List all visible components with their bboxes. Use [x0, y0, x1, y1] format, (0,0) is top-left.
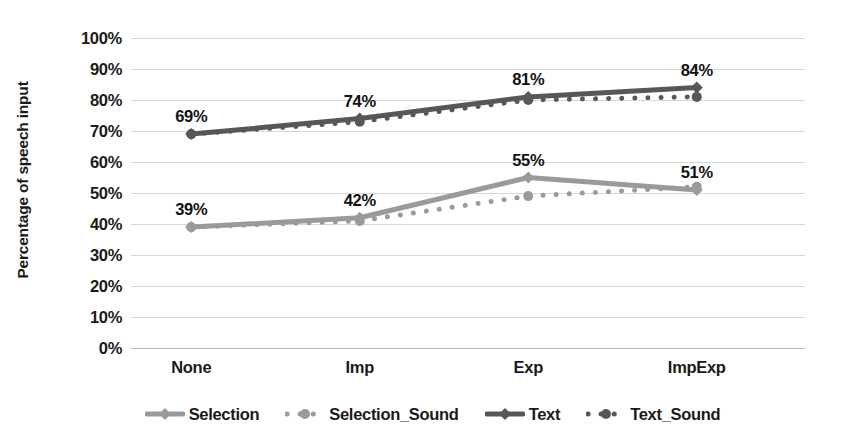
- legend-label: Text_Sound: [630, 405, 720, 424]
- legend-label: Text: [529, 405, 561, 424]
- data-point-marker: [355, 117, 365, 127]
- data-point-marker: [186, 222, 196, 232]
- y-axis-tick-labels: 100%90%80%70%60%50%40%30%20%10%0%: [40, 0, 128, 447]
- legend-label: Selection_Sound: [329, 405, 458, 424]
- x-axis-tick-label: Exp: [514, 358, 543, 377]
- y-axis-tick-label: 30%: [90, 246, 122, 265]
- legend-item-text[interactable]: Text: [485, 405, 561, 424]
- data-label: 51%: [681, 163, 713, 182]
- legend-item-text_sound[interactable]: Text_Sound: [586, 405, 720, 424]
- y-axis-tick-label: 40%: [90, 215, 122, 234]
- y-axis-tick-label: 90%: [90, 60, 122, 79]
- data-label: 84%: [681, 61, 713, 80]
- data-label: 74%: [344, 92, 376, 111]
- series-line: [191, 178, 697, 228]
- y-axis-title-text: Percentage of speech input: [14, 81, 32, 278]
- line-chart: Percentage of speech input 100%90%80%70%…: [0, 0, 865, 447]
- y-axis-tick-label: 60%: [90, 153, 122, 172]
- y-axis-tick-label: 100%: [81, 29, 122, 48]
- legend-item-selection[interactable]: Selection: [145, 405, 260, 424]
- data-point-marker: [691, 82, 703, 94]
- y-axis-tick-label: 50%: [90, 184, 122, 203]
- legend-item-selection_sound[interactable]: Selection_Sound: [285, 405, 458, 424]
- legend-swatch-dotted: [586, 406, 626, 422]
- series-canvas: [131, 38, 805, 348]
- data-point-marker: [692, 182, 702, 192]
- data-point-marker: [186, 129, 196, 139]
- data-point-marker: [523, 191, 533, 201]
- data-point-marker: [522, 172, 534, 184]
- x-axis-tick-label: ImpExp: [668, 358, 726, 377]
- plot-area: 39%42%55%51%69%74%81%84%: [131, 38, 805, 348]
- data-label: 39%: [175, 200, 207, 219]
- series-selection: [185, 172, 703, 234]
- legend-label: Selection: [189, 405, 260, 424]
- legend-swatch-dotted: [285, 406, 325, 422]
- x-axis-tick-labels: NoneImpExpImpExp: [131, 356, 805, 390]
- x-axis-tick-label: None: [171, 358, 211, 377]
- y-axis-tick-label: 80%: [90, 91, 122, 110]
- chart-legend: SelectionSelection_SoundTextText_Sound: [0, 398, 865, 430]
- data-label: 81%: [512, 70, 544, 89]
- data-label: 69%: [175, 107, 207, 126]
- legend-swatch-solid: [485, 406, 525, 422]
- y-axis-tick-label: 10%: [90, 308, 122, 327]
- y-axis-tick-label: 0%: [99, 339, 122, 358]
- series-text_sound: [186, 92, 702, 139]
- x-axis-line: [131, 348, 805, 349]
- y-axis-tick-label: 20%: [90, 277, 122, 296]
- x-axis-tick-label: Imp: [346, 358, 374, 377]
- series-text: [185, 82, 703, 141]
- y-axis-title: Percentage of speech input: [6, 0, 40, 360]
- y-axis-tick-label: 70%: [90, 122, 122, 141]
- legend-swatch-solid: [145, 406, 185, 422]
- data-label: 55%: [512, 151, 544, 170]
- data-point-marker: [355, 216, 365, 226]
- data-label: 42%: [344, 191, 376, 210]
- data-point-marker: [523, 95, 533, 105]
- data-point-marker: [692, 92, 702, 102]
- series-line: [191, 88, 697, 135]
